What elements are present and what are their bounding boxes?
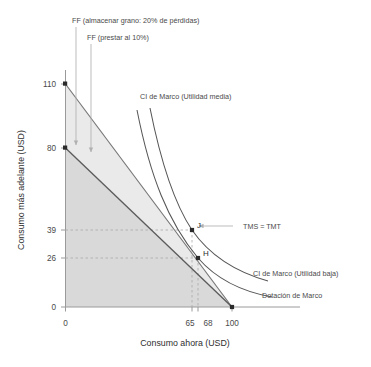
point-marker-h	[196, 256, 200, 260]
y-axis-title: Consumo más adelante (USD)	[16, 130, 26, 250]
chart-svg: 110 80 39 26 0 0 65 68 100 Consumo más a…	[0, 0, 371, 367]
y-tick-marks	[61, 84, 66, 307]
x-axis-title: Consumo ahora (USD)	[140, 338, 230, 348]
point-marker-j	[190, 228, 194, 232]
x-tick-label-68: 68	[203, 319, 213, 328]
annotation-ff-storage: FF (almacenar grano: 20% de pérdidas)	[72, 16, 199, 25]
annotation-tms-tmt: TMS = TMT	[243, 222, 282, 231]
x-tick-label-100: 100	[225, 319, 239, 328]
chart-figure: 110 80 39 26 0 0 65 68 100 Consumo más a…	[0, 0, 371, 367]
x-tick-label-65: 65	[185, 319, 195, 328]
point-marker-endowment	[230, 305, 234, 309]
y-tick-label-110: 110	[43, 80, 56, 89]
y-tick-label-80: 80	[47, 144, 57, 153]
point-marker-80	[63, 146, 67, 150]
y-tick-label-0: 0	[51, 303, 56, 312]
y-tick-label-39: 39	[47, 226, 57, 235]
point-label-j: J	[197, 221, 201, 230]
y-tick-label-26: 26	[47, 254, 57, 263]
annotation-ci-medium: CI de Marco (Utilidad media)	[140, 92, 231, 101]
point-label-h: H	[203, 249, 209, 258]
x-tick-marks	[66, 307, 233, 312]
point-marker-110	[63, 82, 67, 86]
x-tick-label-0: 0	[63, 319, 68, 328]
annotation-endowment: Dotación de Marco	[262, 291, 322, 300]
annotation-ff-lend: FF (prestar al 10%)	[87, 33, 149, 42]
annotation-ci-low: CI de Marco (Utilidad baja)	[253, 269, 339, 278]
